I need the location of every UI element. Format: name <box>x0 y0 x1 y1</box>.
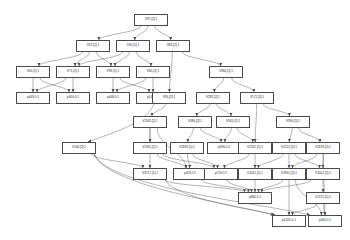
graph-node[interactable]: V345.[1]:1 <box>216 116 250 128</box>
graph-node-label: p1005.0:1 <box>282 219 296 222</box>
graph-node[interactable]: V1182.[2]:1 <box>133 116 167 128</box>
graph-node[interactable]: V71.[2]:1 <box>56 66 90 78</box>
graph-node-label: V3002.[2]:1 <box>315 172 331 175</box>
graph-node[interactable]: V172.[2]:1 <box>240 92 274 104</box>
graph-node-label: V96.[1]:1 <box>107 70 119 73</box>
graph-node[interactable]: V2441.[1]:1 <box>238 168 272 180</box>
graph-edge <box>323 204 324 215</box>
graph-node[interactable]: V96.[1]:1 <box>96 66 130 78</box>
graph-node[interactable]: p408.0:1 <box>96 92 130 104</box>
graph-node-label: p390.0:1 <box>218 146 230 149</box>
graph-node-label: V2122.[2]:1 <box>281 146 297 149</box>
graph-node[interactable]: V30.[1]:1 <box>116 40 150 52</box>
graph-edge <box>202 180 249 192</box>
graph-node[interactable]: V92.[2]:1 <box>134 14 168 26</box>
graph-edge <box>292 204 316 215</box>
graph-edge <box>289 128 292 142</box>
graph-node-label: V1181.[1]:1 <box>142 146 158 149</box>
graph-node[interactable]: V282.[2]:1 <box>196 92 230 104</box>
graph-edge <box>79 52 122 66</box>
graph-edge <box>298 128 320 142</box>
graph-edge <box>97 52 111 66</box>
graph-edge <box>224 154 248 168</box>
graph-node[interactable]: V3712.[1]:1 <box>133 168 167 180</box>
graph-edge <box>92 154 143 168</box>
graph-node-label: V386.[2]:1 <box>188 120 202 123</box>
graph-edge <box>40 78 69 92</box>
graph-edge <box>137 52 151 66</box>
graph-node-label: V2901.[2]:1 <box>281 172 297 175</box>
graph-node[interactable]: p1005.0:1 <box>272 215 306 227</box>
graph-node[interactable]: V60.[2]:1 <box>136 66 170 78</box>
graph-edge <box>232 78 254 92</box>
graph-node-label: V384.[1]:1 <box>219 70 233 73</box>
graph-edge <box>165 180 245 192</box>
graph-node-label: p403.0:1 <box>27 96 39 99</box>
graph-edge <box>157 154 186 168</box>
graph-node-label: V71.[2]:1 <box>67 70 79 73</box>
graph-node[interactable]: V40.[1]:1 <box>16 66 50 78</box>
graph-edge <box>255 104 256 142</box>
graph-node[interactable]: V384.[1]:1 <box>209 66 243 78</box>
graph-node[interactable]: p720.0:1 <box>204 168 238 180</box>
graph-node-label: V2441.[1]:1 <box>247 172 263 175</box>
graph-node[interactable]: V83.[2]:1 <box>156 40 190 52</box>
graph-node-label: V60.[2]:1 <box>147 70 159 73</box>
graph-edge <box>292 154 316 168</box>
graph-node[interactable]: V1181.[1]:1 <box>133 142 167 154</box>
graph-node[interactable]: V2901.[2]:1 <box>272 168 306 180</box>
graph-edge <box>135 26 148 40</box>
graph-node-label: V92.[2]:1 <box>145 18 157 21</box>
graph-node[interactable]: V146.[2]:1 <box>62 142 96 154</box>
graph-edge <box>200 128 221 142</box>
graph-edge <box>214 78 223 92</box>
graph-edge <box>323 154 324 215</box>
graph-edge <box>155 26 171 40</box>
graph-edge <box>295 154 319 168</box>
graph-node-label: V83.[2]:1 <box>167 44 179 47</box>
graph-edge <box>193 154 217 168</box>
graph-edge <box>262 180 311 192</box>
graph-edge <box>37 78 66 92</box>
graph-node[interactable]: p860.0:1 <box>238 192 272 204</box>
graph-edge <box>117 78 146 92</box>
graph-node[interactable]: V386.[2]:1 <box>178 116 212 128</box>
graph-edge <box>225 128 231 142</box>
graph-node[interactable]: p403.0:1 <box>16 92 50 104</box>
graph-node[interactable]: V3193.[2]:1 <box>306 142 340 154</box>
graph-edge <box>163 154 214 168</box>
graph-edge <box>152 104 166 116</box>
graph-node[interactable]: p300.0:1 <box>56 92 90 104</box>
graph-node[interactable]: p390.0:1 <box>207 142 241 154</box>
graph-node-label: p300.0:1 <box>67 96 79 99</box>
graph-edge <box>94 154 310 215</box>
graph-node[interactable]: p403.0:1 <box>173 168 207 180</box>
graph-node[interactable]: p460.0:1 <box>308 215 342 227</box>
graph-edge <box>263 104 289 116</box>
graph-node-label: V390.[1]:1 <box>286 120 300 123</box>
graph-node[interactable]: V90.[2]:1 <box>152 92 186 104</box>
graph-edge <box>75 52 89 66</box>
graph-edge <box>237 128 253 142</box>
graph-node-label: V282.[2]:1 <box>206 96 220 99</box>
graph-node-label: p408.0:1 <box>107 96 119 99</box>
graph-node-label: V90.[2]:1 <box>163 96 175 99</box>
graph-node[interactable]: V2122.[2]:1 <box>272 142 306 154</box>
graph-edge <box>94 154 274 215</box>
graph-node-label: V2751.[1]:1 <box>315 196 331 199</box>
graph-edge <box>115 52 129 66</box>
graph-node[interactable]: V22.[2]:1 <box>76 40 110 52</box>
graph-node[interactable]: V3183.[1]:1 <box>170 142 204 154</box>
graph-edge <box>217 104 231 116</box>
graph-node[interactable]: V2762.[2]:1 <box>238 142 272 154</box>
graph-node[interactable]: V390.[1]:1 <box>276 116 310 128</box>
graph-node[interactable]: V3002.[2]:1 <box>306 168 340 180</box>
graph-node[interactable]: V2751.[1]:1 <box>306 192 340 204</box>
graph-node-label: V3193.[2]:1 <box>315 146 331 149</box>
graph-edge <box>197 104 210 116</box>
graph-node-label: V2762.[2]:1 <box>247 146 263 149</box>
graph-node-label: p720.0:1 <box>215 172 227 175</box>
graph-node-label: V3183.[1]:1 <box>179 146 195 149</box>
graph-node-label: p403.0:1 <box>184 172 196 175</box>
graph-node-label: V22.[2]:1 <box>87 44 99 47</box>
